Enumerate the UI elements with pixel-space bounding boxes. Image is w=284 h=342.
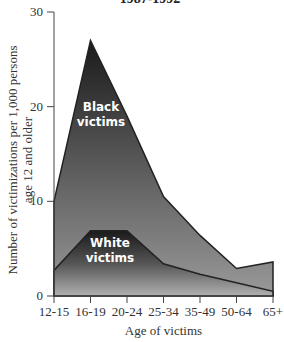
y-axis-label: Number of victimizations per 1,000 perso… xyxy=(5,15,35,305)
y-tick-label: 10 xyxy=(21,193,43,209)
x-tick-label: 16-19 xyxy=(71,304,111,320)
x-tick-label: 25-34 xyxy=(144,304,184,320)
y-axis-label-line2: age 12 and older xyxy=(20,15,35,305)
x-tick-label: 65+ xyxy=(253,304,284,320)
x-ticks xyxy=(54,296,273,303)
x-tick-label: 12-15 xyxy=(34,304,74,320)
x-tick-label: 20-24 xyxy=(107,304,147,320)
x-axis-label: Age of victims xyxy=(54,323,273,339)
y-axis-label-line1: Number of victimizations per 1,000 perso… xyxy=(5,15,20,305)
black-victims-label: Black victims xyxy=(68,100,134,130)
y-tick-label: 20 xyxy=(21,99,43,115)
y-tick-label: 30 xyxy=(21,4,43,20)
white-victims-label: White victims xyxy=(74,236,146,266)
x-tick-label: 50-64 xyxy=(217,304,257,320)
x-tick-label: 35-49 xyxy=(180,304,220,320)
white-victims-label-line1: White xyxy=(74,236,146,251)
y-ticks xyxy=(47,12,54,296)
white-victims-label-line2: victims xyxy=(74,251,146,266)
black-victims-label-line1: Black xyxy=(68,100,134,115)
y-tick-label: 0 xyxy=(21,288,43,304)
black-victims-label-line2: victims xyxy=(68,115,134,130)
